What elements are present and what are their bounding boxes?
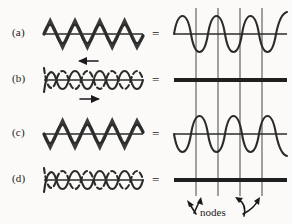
row-c-right-result — [174, 116, 287, 156]
row-a-result-wave — [174, 12, 287, 52]
row-b-left-waves — [44, 68, 143, 92]
row-a-left-waves — [44, 21, 143, 47]
wave-canvas — [0, 0, 292, 224]
arrow-right-icon — [91, 95, 100, 103]
node-arrow-1-icon — [187, 200, 194, 207]
standing-wave-figure: (a) (b) (c) (d) = = = = nodes — [0, 0, 292, 224]
arrow-left-icon — [78, 57, 87, 65]
node-lines-group — [196, 8, 262, 196]
row-c-result-wave — [174, 116, 287, 156]
row-c-left-waves — [44, 121, 143, 147]
node-pointer-arrows — [187, 197, 260, 216]
row-d-left-waves — [44, 168, 143, 192]
row-a-right-result — [174, 12, 287, 52]
